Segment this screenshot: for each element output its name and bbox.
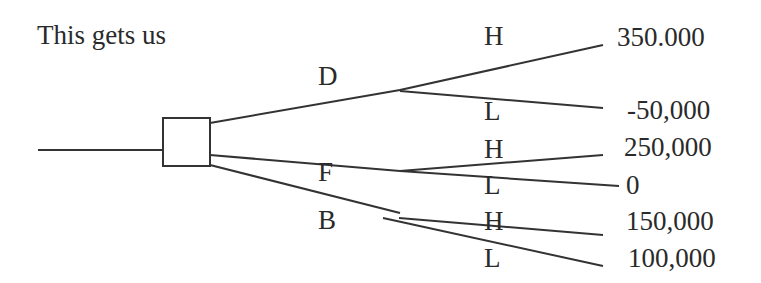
branch-b-line bbox=[210, 165, 400, 213]
outcome-label-d-l: L bbox=[484, 98, 501, 125]
payoff-d-h: 350.000 bbox=[617, 24, 705, 51]
outcome-label-d-h: H bbox=[484, 23, 504, 50]
payoff-f-l: 0 bbox=[626, 172, 640, 199]
payoff-b-l: 100,000 bbox=[628, 245, 716, 272]
branch-label-b: B bbox=[318, 207, 336, 234]
branch-d-line bbox=[210, 90, 400, 123]
branch-f-line bbox=[210, 155, 400, 171]
decision-tree-diagram: This gets us D F B H L H L H L 350.000 -… bbox=[0, 0, 761, 283]
outcome-label-f-l: L bbox=[484, 172, 501, 199]
branch-d-h-line bbox=[400, 45, 603, 90]
heading-text: This gets us bbox=[37, 22, 166, 49]
payoff-f-h: 250,000 bbox=[624, 134, 712, 161]
payoff-d-l: -50,000 bbox=[627, 97, 710, 124]
branch-label-d: D bbox=[318, 63, 338, 90]
branch-f-l-line bbox=[400, 171, 619, 186]
payoff-b-h: 150,000 bbox=[626, 208, 714, 235]
outcome-label-b-h: H bbox=[484, 208, 504, 235]
decision-node-square bbox=[163, 118, 210, 166]
outcome-label-b-l: L bbox=[484, 245, 501, 272]
branch-d-l-line bbox=[400, 91, 603, 108]
outcome-label-f-h: H bbox=[484, 136, 504, 163]
branch-label-f: F bbox=[318, 159, 333, 186]
